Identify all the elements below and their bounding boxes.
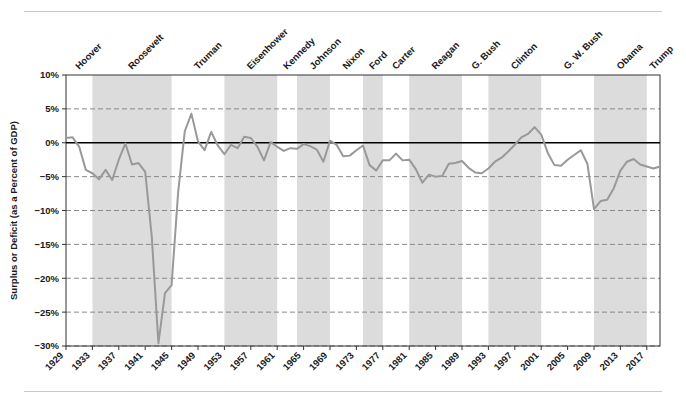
president-label-roosevelt: Roosevelt: [126, 31, 166, 71]
y-tick-label--25: −25%: [34, 307, 59, 318]
y-tick-label-0: 0%: [45, 137, 59, 148]
y-tick-label--5: −5%: [40, 171, 60, 182]
y-tick-label-10: 10%: [40, 69, 60, 80]
president-label-hoover: Hoover: [73, 40, 104, 71]
president-label-carter: Carter: [390, 44, 418, 72]
x-tick-label-1945: 1945: [148, 349, 171, 372]
president-label-truman: Truman: [192, 39, 224, 71]
x-tick-label-2017: 2017: [623, 350, 646, 373]
y-tick-label--10: −10%: [34, 205, 59, 216]
x-tick-label-1969: 1969: [307, 350, 330, 373]
x-tick-label-1929: 1929: [43, 350, 66, 373]
y-axis-title: Surplus or Deficit (as a Percent of GDP): [8, 121, 19, 300]
y-tick-label-5: 5%: [45, 103, 59, 114]
x-tick-label-1985: 1985: [412, 349, 435, 372]
x-tick-label-1941: 1941: [122, 349, 145, 372]
y-tick-label--15: −15%: [34, 239, 59, 250]
president-label-obama: Obama: [614, 40, 645, 71]
x-tick-label-1965: 1965: [280, 349, 303, 372]
y-tick-label--30: −30%: [34, 340, 59, 351]
x-tick-label-1953: 1953: [201, 350, 224, 373]
x-tick-label-1989: 1989: [439, 350, 462, 373]
federal-surplus-deficit-chart: 10%5%0%−5%−10%−15%−20%−25%−30%Surplus or…: [0, 0, 686, 403]
x-tick-label-1937: 1937: [95, 350, 118, 373]
x-tick-label-1993: 1993: [465, 350, 488, 373]
president-label-clinton: Clinton: [508, 40, 539, 71]
y-axis: 10%5%0%−5%−10%−15%−20%−25%−30%: [34, 69, 66, 351]
x-tick-label-1933: 1933: [69, 350, 92, 373]
president-label-nixon: Nixon: [340, 45, 367, 72]
x-tick-label-2009: 2009: [571, 350, 594, 373]
x-axis: 1929193319371941194519491953195719611965…: [43, 346, 647, 372]
president-label-ford: Ford: [367, 49, 390, 72]
president-label-trump: Trump: [647, 43, 675, 71]
x-tick-label-2005: 2005: [544, 349, 567, 372]
president-label-g-w-bush: G. W. Bush: [561, 28, 604, 71]
president-label-reagan: Reagan: [429, 39, 461, 71]
x-tick-label-2001: 2001: [518, 349, 541, 372]
x-tick-label-1997: 1997: [491, 350, 514, 373]
president-labels: HooverRooseveltTrumanEisenhowerKennedyJo…: [73, 26, 676, 72]
president-label-g-bush: G. Bush: [469, 38, 503, 72]
x-tick-label-1981: 1981: [386, 349, 409, 372]
chart-svg: 10%5%0%−5%−10%−15%−20%−25%−30%Surplus or…: [0, 0, 686, 403]
chart-page: 10%5%0%−5%−10%−15%−20%−25%−30%Surplus or…: [0, 0, 686, 403]
x-tick-label-1977: 1977: [359, 350, 382, 373]
x-tick-label-1949: 1949: [175, 350, 198, 373]
x-tick-label-2013: 2013: [597, 350, 620, 373]
x-tick-label-1961: 1961: [254, 349, 277, 372]
x-tick-label-1957: 1957: [227, 350, 250, 373]
x-tick-label-1973: 1973: [333, 350, 356, 373]
y-tick-label--20: −20%: [34, 273, 59, 284]
